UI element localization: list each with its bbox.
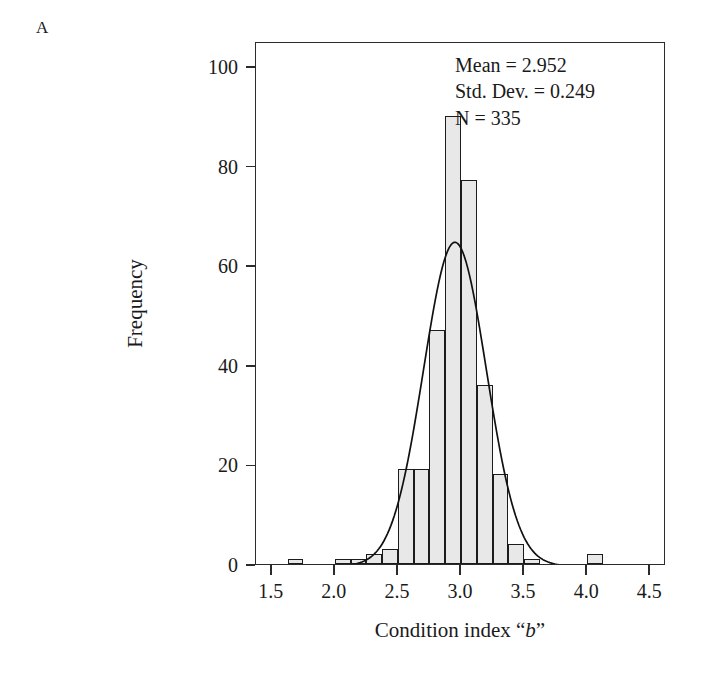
statistics-annotation: Mean = 2.952 Std. Dev. = 0.249 N = 335 <box>455 52 595 131</box>
histogram-bar <box>445 116 461 564</box>
x-axis-title-suffix: ” <box>536 618 545 642</box>
y-axis-title: Frequency <box>122 42 148 565</box>
y-tick-label: 100 <box>178 57 238 77</box>
y-tick-label: 0 <box>178 555 238 575</box>
x-axis-title: Condition index “b” <box>255 618 665 643</box>
y-tick-mark <box>246 365 255 367</box>
x-tick-mark <box>648 565 650 575</box>
x-tick-mark <box>459 565 461 575</box>
x-tick-mark <box>396 565 398 575</box>
panel-label: A <box>36 18 48 38</box>
x-tick-label: 1.5 <box>236 581 306 601</box>
x-tick-label: 4.5 <box>614 581 684 601</box>
x-tick-label: 2.0 <box>299 581 369 601</box>
y-tick-mark <box>246 66 255 68</box>
y-tick-label: 40 <box>178 356 238 376</box>
x-tick-label: 3.0 <box>425 581 495 601</box>
histogram-bar <box>461 180 477 564</box>
annotation-mean: Mean = 2.952 <box>455 52 595 78</box>
figure-panel: A Frequency Condition index “b” 02040608… <box>0 0 702 674</box>
histogram-bar <box>508 544 524 564</box>
x-tick-mark <box>333 565 335 575</box>
histogram-bar <box>335 559 351 564</box>
histogram-bar <box>477 385 493 564</box>
x-axis-title-prefix: Condition index “ <box>375 618 526 642</box>
y-tick-mark <box>246 564 255 566</box>
annotation-std-dev: Std. Dev. = 0.249 <box>455 78 595 104</box>
histogram-bar <box>288 559 304 564</box>
x-tick-mark <box>270 565 272 575</box>
histogram-bar <box>493 474 509 564</box>
y-tick-label: 20 <box>178 455 238 475</box>
x-tick-mark <box>585 565 587 575</box>
x-tick-label: 2.5 <box>362 581 432 601</box>
y-tick-mark <box>246 465 255 467</box>
histogram-bar <box>366 554 382 564</box>
histogram-bar <box>524 559 540 564</box>
y-tick-mark <box>246 166 255 168</box>
x-axis-title-variable: b <box>525 618 536 642</box>
histogram-bar <box>382 549 398 564</box>
x-tick-label: 3.5 <box>488 581 558 601</box>
histogram-bar <box>429 330 445 564</box>
histogram-bar <box>587 554 603 564</box>
histogram-bar <box>351 559 367 564</box>
y-tick-label: 60 <box>178 256 238 276</box>
annotation-sample-size: N = 335 <box>455 105 595 131</box>
y-tick-mark <box>246 265 255 267</box>
x-tick-mark <box>522 565 524 575</box>
histogram-bar <box>398 469 414 564</box>
x-tick-label: 4.0 <box>551 581 621 601</box>
y-tick-label: 80 <box>178 157 238 177</box>
histogram-bar <box>414 469 430 564</box>
